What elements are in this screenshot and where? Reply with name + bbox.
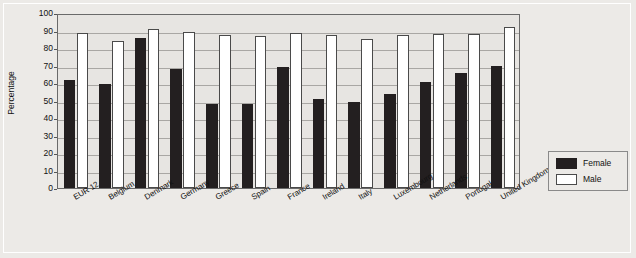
y-tick-mark <box>54 189 57 190</box>
y-tick-label: 0 <box>28 184 53 193</box>
bar-female-germany <box>170 69 182 188</box>
bar-female-luxembourg <box>384 94 396 189</box>
bar-male-france <box>290 33 302 188</box>
y-tick-label: 70 <box>28 62 53 71</box>
bar-female-greece <box>206 104 218 188</box>
legend-item-male: Male <box>556 173 627 185</box>
bar-male-greece <box>219 35 231 188</box>
bar-male-spain <box>255 36 267 188</box>
bar-male-ireland <box>326 35 338 188</box>
y-tick-label: 20 <box>28 149 53 158</box>
legend-swatch-female <box>556 158 577 169</box>
y-tick-label: 50 <box>28 97 53 106</box>
y-tick-label: 10 <box>28 167 53 176</box>
bar-male-netherlands <box>433 34 445 188</box>
bar-female-portugal <box>455 73 467 188</box>
y-tick-label: 30 <box>28 132 53 141</box>
bar-male-luxembourg <box>397 35 409 188</box>
gridline <box>58 33 519 34</box>
bar-male-united-kingdom <box>504 27 516 188</box>
y-tick-label: 60 <box>28 79 53 88</box>
grouped-bar-chart: Percentage 1009080706050403020100 EUR 12… <box>0 0 636 258</box>
bar-female-france <box>277 67 289 188</box>
bar-male-germany <box>183 32 195 188</box>
bar-male-denmark <box>148 29 160 188</box>
y-tick-label: 100 <box>28 9 53 18</box>
legend-label: Male <box>583 175 601 184</box>
y-tick-label: 80 <box>28 44 53 53</box>
bar-male-portugal <box>468 34 480 188</box>
chart-legend: FemaleMale <box>548 151 628 191</box>
bar-male-eur-12 <box>77 33 89 188</box>
plot-area <box>57 14 520 189</box>
legend-swatch-male <box>556 174 577 185</box>
bar-female-denmark <box>135 38 147 188</box>
bar-female-belgium <box>99 84 111 188</box>
legend-item-female: Female <box>556 157 627 169</box>
bar-female-spain <box>242 104 254 188</box>
bar-female-italy <box>348 102 360 188</box>
bar-female-united-kingdom <box>491 66 503 189</box>
bar-female-eur-12 <box>64 80 76 189</box>
bar-male-italy <box>361 39 373 188</box>
bar-female-ireland <box>313 99 325 188</box>
gridline <box>58 50 519 51</box>
y-tick-label: 90 <box>28 27 53 36</box>
bar-male-belgium <box>112 41 124 188</box>
y-tick-label: 40 <box>28 114 53 123</box>
y-axis-title: Percentage <box>6 58 16 128</box>
legend-label: Female <box>583 159 611 168</box>
